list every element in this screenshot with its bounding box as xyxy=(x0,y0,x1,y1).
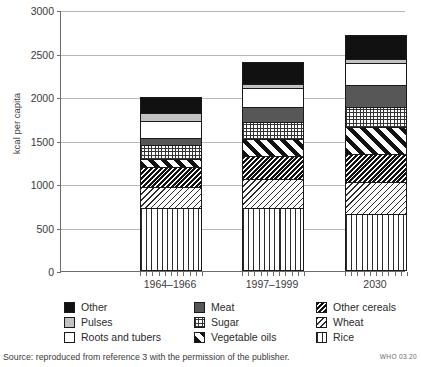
bar-segment-othercereals xyxy=(242,156,304,179)
bar-segment-roots xyxy=(242,88,304,106)
bar-segment-pulses xyxy=(140,113,202,122)
y-tick-label: 1500 xyxy=(31,136,54,148)
bar-segment-other xyxy=(140,97,202,113)
x-tick-mark xyxy=(202,272,203,276)
legend-label: Pulses xyxy=(81,316,113,328)
x-tick-mark xyxy=(357,272,358,276)
stacked-bar-chart: kcal per capita 050010001500200025003000… xyxy=(0,0,422,295)
x-tick-mark xyxy=(279,272,280,276)
x-tick-mark xyxy=(242,272,243,276)
y-tick-label: 0 xyxy=(48,266,54,278)
y-tick-mark xyxy=(57,142,61,143)
chart-legend: OtherMeatOther cerealsPulsesSugarWheatRo… xyxy=(64,301,414,343)
bar-segment-other xyxy=(345,35,407,59)
x-tick-mark xyxy=(382,272,383,276)
legend-label: Rice xyxy=(333,331,354,343)
bar-segment-meat xyxy=(242,107,304,122)
y-tick-mark xyxy=(57,55,61,56)
x-tick-mark xyxy=(140,272,141,276)
x-tick-mark xyxy=(267,272,268,276)
legend-swatch-rice-icon xyxy=(316,332,327,343)
bar-segment-othercereals xyxy=(345,154,407,182)
x-tick-mark xyxy=(304,272,305,276)
x-tick-mark xyxy=(370,272,371,276)
y-axis-label: kcal per capita xyxy=(11,64,22,184)
bar-segment-rice xyxy=(242,208,304,271)
legend-swatch-meat-icon xyxy=(194,302,205,313)
x-tick-mark xyxy=(159,272,160,276)
y-tick-label: 2500 xyxy=(31,49,54,61)
legend-swatch-other-icon xyxy=(64,302,75,313)
legend-label: Meat xyxy=(211,301,234,313)
x-tick-mark xyxy=(376,272,377,276)
x-tick-label: 1997–1999 xyxy=(246,278,299,290)
legend-item-wheat: Wheat xyxy=(316,316,422,328)
x-tick-mark xyxy=(146,272,147,276)
legend-item-sugar: Sugar xyxy=(194,316,316,328)
x-tick-mark xyxy=(292,272,293,276)
x-tick-mark xyxy=(190,272,191,276)
x-tick-mark xyxy=(196,272,197,276)
y-tick-mark xyxy=(57,185,61,186)
bar-segment-vegoils xyxy=(242,139,304,156)
legend-item-pulses: Pulses xyxy=(64,316,194,328)
bar-segment-wheat xyxy=(140,187,202,209)
x-tick-mark xyxy=(183,272,184,276)
x-tick-mark xyxy=(171,272,172,276)
y-tick-label: 2000 xyxy=(31,92,54,104)
x-tick-mark xyxy=(388,272,389,276)
bar-segment-rice xyxy=(140,208,202,271)
legend-swatch-vegoils-icon xyxy=(194,332,205,343)
x-tick-mark xyxy=(407,272,408,276)
x-tick-mark xyxy=(261,272,262,276)
legend-label: Other cereals xyxy=(333,301,396,313)
legend-swatch-sugar-icon xyxy=(194,317,205,328)
x-tick-mark xyxy=(345,272,346,276)
legend-label: Other xyxy=(81,301,107,313)
bar-segment-othercereals xyxy=(140,167,202,187)
legend-label: Roots and tubers xyxy=(81,331,161,343)
source-note: Source: reproduced from reference 3 with… xyxy=(3,352,290,362)
y-tick-label: 1000 xyxy=(31,179,54,191)
bar-3 xyxy=(345,35,407,271)
bar-segment-meat xyxy=(140,138,202,145)
bar-1 xyxy=(140,97,202,271)
y-tick-mark xyxy=(57,229,61,230)
x-tick-mark xyxy=(401,272,402,276)
x-tick-mark xyxy=(395,272,396,276)
bar-segment-sugar xyxy=(242,122,304,139)
who-code-label: WHO 03.20 xyxy=(380,353,417,360)
x-tick-mark xyxy=(351,272,352,276)
legend-item-roots: Roots and tubers xyxy=(64,331,194,343)
legend-label: Sugar xyxy=(211,316,239,328)
x-tick-mark xyxy=(165,272,166,276)
legend-swatch-roots-icon xyxy=(64,332,75,343)
legend-label: Wheat xyxy=(333,316,363,328)
legend-item-meat: Meat xyxy=(194,301,316,313)
legend-item-other: Other xyxy=(64,301,194,313)
x-tick-mark xyxy=(152,272,153,276)
legend-swatch-wheat-icon xyxy=(316,317,327,328)
bar-2 xyxy=(242,62,304,271)
x-tick-mark xyxy=(285,272,286,276)
bar-segment-roots xyxy=(140,121,202,138)
y-tick-mark xyxy=(57,11,61,12)
x-tick-label: 2030 xyxy=(363,278,386,290)
bar-segment-sugar xyxy=(345,107,407,127)
y-tick-mark xyxy=(57,272,61,273)
x-tick-mark xyxy=(273,272,274,276)
bar-segment-vegoils xyxy=(140,159,202,167)
x-tick-mark xyxy=(177,272,178,276)
legend-label: Vegetable oils xyxy=(211,331,276,343)
y-tick-label: 3000 xyxy=(31,5,54,17)
legend-item-othercereals: Other cereals xyxy=(316,301,422,313)
x-tick-mark xyxy=(254,272,255,276)
gridline xyxy=(61,11,405,12)
bar-segment-vegoils xyxy=(345,127,407,154)
legend-swatch-pulses-icon xyxy=(64,317,75,328)
legend-item-vegoils: Vegetable oils xyxy=(194,331,316,343)
y-tick-label: 500 xyxy=(36,223,54,235)
bar-segment-roots xyxy=(345,63,407,86)
x-tick-label: 1964–1966 xyxy=(144,278,197,290)
x-tick-mark xyxy=(364,272,365,276)
